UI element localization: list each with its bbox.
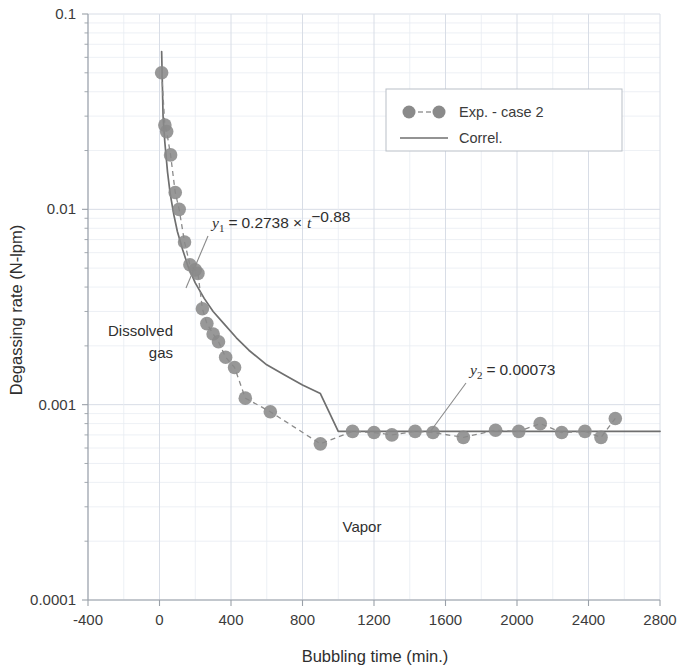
x-tick-label: 1600	[429, 611, 462, 628]
x-tick-label: 0	[155, 611, 163, 628]
equation-1-equals: =	[228, 214, 237, 231]
equation-1-variable: y	[210, 214, 219, 231]
data-point-marker	[160, 125, 174, 139]
dissolved-gas-label-line2: gas	[149, 344, 173, 361]
data-point-marker	[609, 412, 623, 426]
data-point-marker	[385, 428, 399, 442]
dissolved-gas-label-line1: Dissolved	[108, 322, 173, 339]
data-point-marker	[555, 426, 569, 440]
legend-marker-circle-left	[403, 106, 416, 119]
x-tick-label: 2000	[500, 611, 533, 628]
y-tick-label: 0.001	[38, 396, 76, 413]
data-point-marker	[457, 431, 471, 445]
data-point-marker	[408, 425, 422, 439]
data-point-marker	[178, 235, 192, 249]
data-point-marker	[155, 66, 169, 80]
equation-1-times-symbol: ×	[293, 214, 302, 231]
chart-canvas: -400040080012001600200024002800 0.10.010…	[0, 0, 680, 672]
equation-1-exponent: −0.88	[311, 208, 350, 225]
data-point-marker	[367, 426, 381, 440]
legend-border	[386, 89, 622, 151]
y-tick-label: 0.01	[47, 200, 76, 217]
x-axis-title: Bubbling time (min.)	[302, 647, 449, 665]
x-tick-label: 800	[290, 611, 315, 628]
data-point-marker	[191, 267, 205, 281]
legend-label-correl: Correl.	[459, 130, 503, 146]
y-tick-label: 0.1	[55, 5, 76, 22]
y-tick-label: 0.0001	[30, 591, 76, 608]
data-point-marker	[168, 186, 182, 200]
vapor-region-label: Vapor	[343, 518, 382, 535]
data-point-marker	[578, 425, 592, 439]
equation-1-subscript: 1	[219, 222, 225, 234]
data-point-marker	[172, 203, 186, 217]
x-tick-label: 400	[218, 611, 243, 628]
legend-marker-circle-right	[433, 106, 446, 119]
data-point-marker	[512, 425, 526, 439]
x-tick-label: 2400	[572, 611, 605, 628]
equation-2-value: 0.00073	[499, 361, 555, 378]
equation-2-variable: y	[468, 361, 477, 378]
data-point-marker	[164, 148, 178, 162]
x-tick-label: 1200	[357, 611, 390, 628]
data-point-marker	[219, 350, 233, 364]
equation-2-subscript: 2	[477, 369, 483, 381]
data-point-marker	[314, 437, 328, 451]
data-point-marker	[264, 405, 278, 419]
data-point-marker	[594, 431, 608, 445]
data-point-marker	[212, 335, 226, 349]
data-point-marker	[239, 391, 253, 405]
equation-2-equals: =	[486, 361, 495, 378]
x-tick-label: 2800	[643, 611, 676, 628]
x-tick-label: -400	[73, 611, 103, 628]
data-point-marker	[196, 302, 210, 316]
legend-label-exp-case-2: Exp. - case 2	[459, 104, 544, 120]
data-point-marker	[346, 425, 360, 439]
chart-legend[interactable]: Exp. - case 2 Correl.	[386, 89, 622, 151]
degassing-rate-chart: -400040080012001600200024002800 0.10.010…	[0, 0, 680, 672]
data-point-marker	[533, 417, 547, 431]
data-point-marker	[228, 361, 242, 375]
equation-1-coefficient: 0.2738	[241, 214, 288, 231]
y-axis-title: Degassing rate (N-lpm)	[7, 225, 25, 396]
x-axis-tick-labels: -400040080012001600200024002800	[73, 611, 677, 628]
data-point-marker	[489, 423, 503, 437]
